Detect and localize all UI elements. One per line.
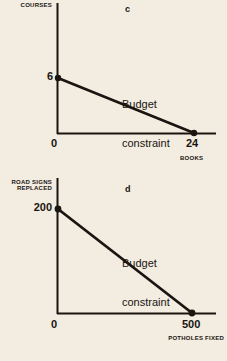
chart-c-x-intercept-point	[191, 130, 197, 136]
chart-c-annotation-line2: constraint	[122, 137, 170, 150]
chart-c-annotation-line1: Budget	[122, 98, 170, 111]
chart-c-y-intercept-point	[55, 75, 61, 81]
chart-c-origin-label: 0	[51, 138, 57, 150]
chart-d-x-intercept-point	[189, 310, 196, 317]
chart-d-y-axis-title: ROAD SIGNS REPLACED	[2, 179, 52, 192]
chart-c-y-intercept-label: 6	[36, 71, 53, 83]
chart-c-y-axis-title: COURSES	[8, 2, 52, 8]
chart-c-x-axis-title: BOOKS	[180, 155, 224, 161]
chart-d-annotation: Budget constraint	[122, 231, 170, 335]
chart-d-annotation-line1: Budget	[122, 257, 170, 270]
chart-d-annotation-line2: constraint	[122, 296, 170, 309]
chart-panel-c: COURSES c 6 0 24 BOOKS Budget constraint	[0, 0, 227, 176]
chart-c-annotation: Budget constraint	[122, 72, 170, 176]
chart-d-x-intercept-label: 500	[182, 319, 200, 331]
figure-canvas: COURSES c 6 0 24 BOOKS Budget constraint…	[0, 0, 227, 361]
chart-d-origin-label: 0	[51, 319, 57, 331]
chart-d-y-intercept-label: 200	[22, 202, 52, 214]
chart-d-x-axis-title: POTHOLES FIXED	[150, 335, 224, 341]
chart-c-x-intercept-label: 24	[186, 138, 198, 150]
chart-d-y-intercept-point	[55, 206, 62, 213]
chart-d-panel-letter: d	[125, 185, 131, 194]
chart-c-graphic	[0, 0, 227, 176]
chart-c-panel-letter: c	[125, 5, 130, 14]
chart-panel-d: ROAD SIGNS REPLACED d 200 0 500 POTHOLES…	[0, 176, 227, 361]
